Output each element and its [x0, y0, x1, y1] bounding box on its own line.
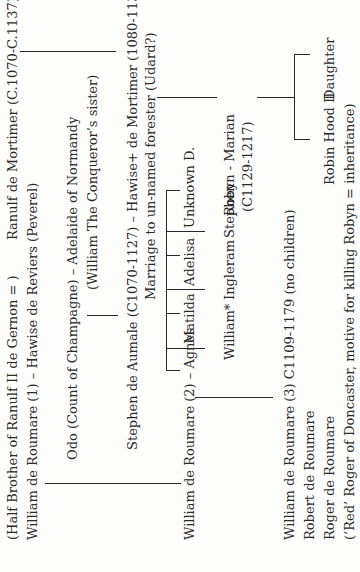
- hawise-robyn-connector: [157, 97, 217, 98]
- william-de-roumare-1: William de Roumare (1) – Hawise de Revie…: [25, 183, 40, 540]
- robyn-dates: (C1129-1217): [240, 121, 255, 212]
- robin-hood-ii: Robin Hood II: [322, 93, 337, 185]
- bracket-divider: [166, 289, 205, 290]
- robyn-children-bracket: [294, 55, 295, 140]
- william2-connector: [195, 397, 273, 398]
- daughter-matilda: Matilda: [182, 293, 197, 344]
- robert-de-roumare: Robert de Roumare: [302, 411, 317, 540]
- robyn-marian: Robyn - Marian: [222, 114, 237, 216]
- stephen-de-aumale: Stephen de Aumale (C1070-1127) – Hawise+…: [125, 0, 140, 450]
- bracket-tick: [166, 190, 180, 191]
- adelaide-note: (William The Conqueror’s sister): [85, 75, 100, 290]
- robyn-children-connector: [257, 97, 294, 98]
- bracket-divider: [166, 231, 205, 232]
- ranulf-de-mortimer: Ranulf de Mortimer (C.1070-C.1137): [5, 0, 20, 240]
- william-de-roumare-3: William de Roumare (3) C1109-1179 (no ch…: [282, 210, 297, 540]
- son-ingleram: Ingleram: [222, 240, 237, 300]
- bracket-tick: [294, 54, 310, 55]
- daughter-adelisa: Adelisa: [182, 238, 197, 286]
- odo-connector: [87, 315, 118, 316]
- odo-count-of-champagne: Odo (Count of Champagne) – Adelaide of N…: [65, 117, 80, 460]
- bracket-tick: [166, 313, 180, 314]
- son-william: William*: [222, 304, 237, 360]
- half-brother-note: (Half Brother of Ranulf II de Gernon = ): [5, 275, 20, 540]
- family-tree-diagram: (Half Brother of Ranulf II de Gernon = )…: [0, 0, 360, 572]
- bracket-tick: [294, 139, 310, 140]
- bracket-tick: [166, 255, 180, 256]
- ranulf-connector: [20, 51, 116, 52]
- children-bracket: [166, 191, 167, 371]
- marriage-note: Marriage to un-named forester (Udard?): [143, 32, 158, 300]
- roger-de-roumare: Roger de Roumare: [322, 416, 337, 540]
- red-roger-note: (‘Red’ Roger of Doncaster, motive for ki…: [342, 103, 357, 540]
- william-de-roumare-2: William de Roumare (2) – Agnes: [182, 328, 197, 540]
- william1-connector: [45, 483, 181, 484]
- daughter-unknown: Unknown D.: [182, 147, 197, 228]
- daughter: Daughter: [322, 38, 337, 100]
- bracket-tick: [166, 370, 180, 371]
